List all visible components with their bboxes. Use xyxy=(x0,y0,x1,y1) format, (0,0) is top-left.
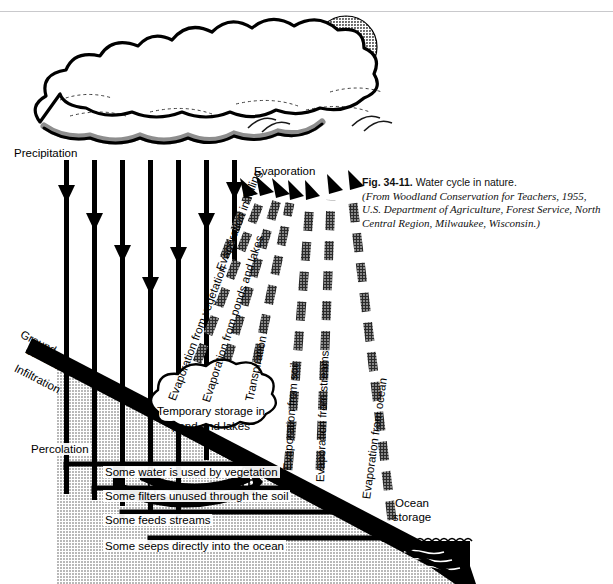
figure-title: Water cycle in nature. xyxy=(416,176,517,188)
cloud xyxy=(35,19,392,143)
figure-caption: Fig. 34-11. Water cycle in nature. (From… xyxy=(362,176,602,230)
label-subsurface-path-2: Some filters unused through the soil xyxy=(103,490,290,502)
label-subsurface-path-4: Some seeps directly into the ocean xyxy=(103,540,286,552)
label-subsurface-path-3: Some feeds streams xyxy=(103,514,212,526)
figure-number: Fig. 34-11. xyxy=(362,176,413,188)
water-cycle-figure: Precipitation Evaporation Ground surface… xyxy=(0,0,613,584)
label-precipitation: Precipitation xyxy=(14,147,77,159)
figure-source: (From Woodland Conservation for Teachers… xyxy=(362,190,602,231)
label-evaporation-heading: Evaporation xyxy=(254,165,315,177)
label-temporary-storage: Temporary storage in pond and lakes xyxy=(150,404,272,434)
label-ocean-storage: Ocean storage xyxy=(383,496,441,524)
label-percolation: Percolation xyxy=(29,443,91,455)
water-cycle-illustration xyxy=(0,0,613,584)
label-subsurface-path-1: Some water is used by vegetation xyxy=(103,466,280,478)
